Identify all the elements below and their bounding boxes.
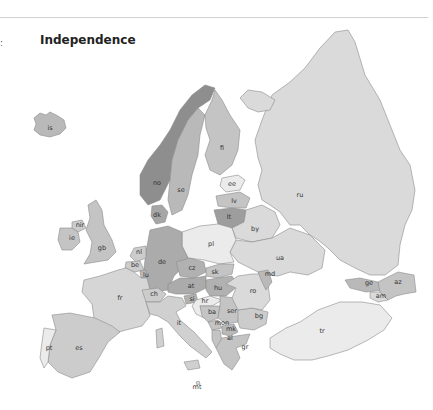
country-tr[interactable] [270, 302, 392, 360]
country-az[interactable] [378, 272, 416, 300]
country-fi[interactable] [205, 90, 240, 175]
country-mt[interactable] [196, 381, 200, 385]
country-sk[interactable] [206, 264, 234, 278]
country-ru-kola[interactable] [240, 90, 275, 112]
country-mon[interactable] [208, 320, 222, 330]
country-ge[interactable] [345, 278, 382, 292]
country-ba[interactable] [200, 306, 220, 322]
country-mk[interactable] [222, 324, 238, 336]
country-it-sicily[interactable] [184, 360, 200, 370]
country-lu[interactable] [140, 270, 147, 278]
country-nl[interactable] [130, 246, 146, 262]
country-cz[interactable] [176, 258, 206, 278]
country-gb[interactable] [84, 200, 116, 264]
country-ie[interactable] [58, 228, 80, 250]
country-at[interactable] [168, 276, 206, 294]
country-gr[interactable] [216, 334, 250, 370]
country-lv[interactable] [216, 192, 250, 208]
country-ee[interactable] [220, 175, 245, 192]
country-it-sardinia[interactable] [156, 328, 164, 348]
country-is[interactable] [34, 112, 66, 137]
country-bg[interactable] [238, 308, 268, 330]
country-dk[interactable] [151, 205, 168, 224]
europe-map: is no se fi dk ee lv lt ru by ua pl de n… [0, 0, 433, 410]
